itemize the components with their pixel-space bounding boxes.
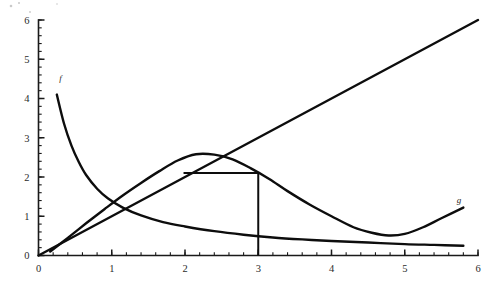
y-tick-label: 1 — [24, 211, 29, 222]
y-tick-label: 6 — [24, 15, 29, 26]
y-tick-label: 4 — [24, 93, 30, 104]
scan-artifacts — [10, 2, 58, 13]
x-axis-tick-labels: 0123456 — [36, 263, 481, 274]
x-tick-label: 0 — [36, 263, 41, 274]
x-tick-label: 1 — [109, 263, 114, 274]
curve-label-f: f — [59, 73, 63, 83]
curve-label-g: g — [457, 195, 462, 205]
y-tick-label: 2 — [24, 172, 29, 183]
x-tick-label: 5 — [402, 263, 407, 274]
y-axis-tick-labels: 0123456 — [24, 15, 30, 261]
x-tick-label: 3 — [256, 263, 261, 274]
y-tick-label: 3 — [24, 133, 29, 144]
x-tick-label: 4 — [329, 263, 335, 274]
x-tick-label: 2 — [182, 263, 187, 274]
chart-figure: 0123456 0123456 f g — [0, 0, 493, 283]
plot-area: 0123456 0123456 f g — [0, 0, 493, 283]
y-tick-label: 0 — [24, 250, 29, 261]
x-tick-label: 6 — [475, 263, 480, 274]
curve-f — [57, 95, 464, 246]
y-tick-label: 5 — [24, 54, 29, 65]
